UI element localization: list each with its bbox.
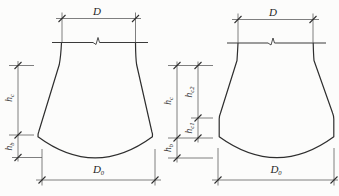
break-mark-icon xyxy=(268,38,275,45)
diagram-canvas: D hc hb D0 xyxy=(0,0,339,196)
pile-outline xyxy=(219,43,334,158)
dim-outer-height-chain: hc hb xyxy=(163,62,213,163)
right-figure: D hc2 hc1 hc hb xyxy=(163,6,338,186)
left-figure: D hc hb D0 xyxy=(4,5,162,186)
label-D0: D0 xyxy=(92,163,105,176)
dim-bottom-diameter: D0 xyxy=(212,148,338,186)
label-D: D xyxy=(268,6,277,18)
dim-top-diameter: D xyxy=(56,5,141,42)
pile-outline xyxy=(38,43,153,158)
label-hc2: hc2 xyxy=(184,86,195,98)
dim-height-chain: hc hb xyxy=(4,61,43,162)
dim-bottom-diameter: D0 xyxy=(36,149,161,186)
break-mark-icon xyxy=(93,38,100,45)
label-hc: hc xyxy=(4,94,15,102)
belled-pile-diagram: D hc hb D0 xyxy=(0,0,339,196)
label-D: D xyxy=(92,5,101,17)
dim-top-diameter: D xyxy=(232,6,319,43)
label-D0: D0 xyxy=(269,163,282,176)
label-hc: hc xyxy=(163,97,174,105)
dim-inner-height-chain: hc2 hc1 xyxy=(168,62,213,143)
label-hc1: hc1 xyxy=(184,123,195,134)
label-hb: hb xyxy=(4,142,15,151)
label-hb: hb xyxy=(163,143,174,152)
